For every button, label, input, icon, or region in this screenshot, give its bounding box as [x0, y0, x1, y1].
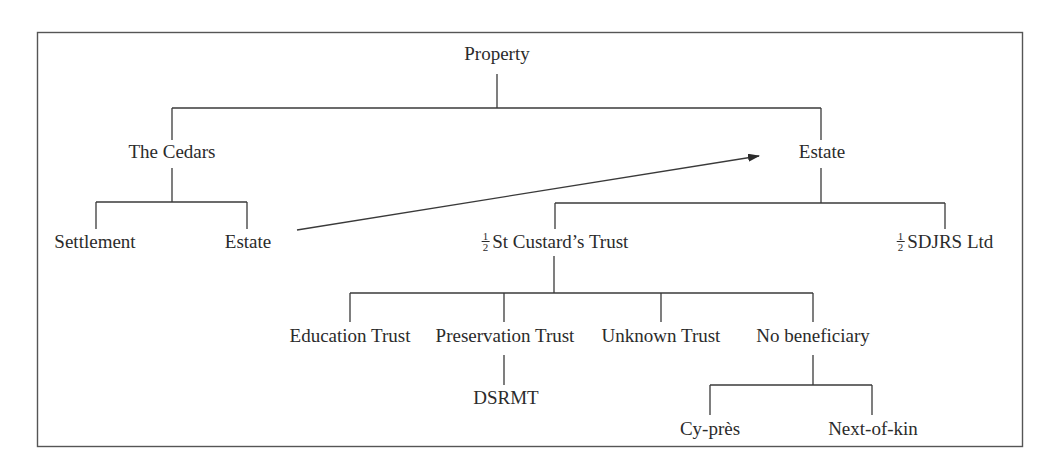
node-label: Estate: [225, 231, 271, 252]
node-estate-top: Estate: [799, 141, 845, 163]
node-label: Education Trust: [290, 325, 411, 346]
node-cedars-estate: Estate: [225, 231, 271, 253]
node-settlement: Settlement: [54, 231, 135, 253]
node-label: Property: [464, 43, 529, 64]
node-label: Next-of-kin: [828, 418, 918, 439]
node-label: Unknown Trust: [602, 325, 721, 346]
node-label: Preservation Trust: [436, 325, 575, 346]
fraction-half: 1 2: [482, 231, 490, 252]
node-sdjrs-ltd: 1 2 SDJRS Ltd: [897, 231, 994, 254]
node-preservation-trust: Preservation Trust: [436, 325, 575, 347]
node-label: No beneficiary: [756, 325, 869, 346]
node-label: Estate: [799, 141, 845, 162]
fraction-denominator: 2: [482, 242, 490, 252]
node-label: DSRMT: [473, 387, 538, 408]
fraction-half: 1 2: [897, 231, 905, 252]
node-the-cedars: The Cedars: [128, 141, 215, 163]
node-unknown-trust: Unknown Trust: [602, 325, 721, 347]
node-label: SDJRS Ltd: [907, 231, 993, 252]
node-label: Cy-près: [680, 418, 740, 439]
node-label: The Cedars: [128, 141, 215, 162]
fraction-denominator: 2: [897, 242, 905, 252]
node-cy-pres: Cy-près: [680, 418, 740, 440]
node-label: St Custard’s Trust: [492, 231, 628, 252]
node-label: Settlement: [54, 231, 135, 252]
diagram-canvas: Property The Cedars Estate Settlement Es…: [0, 0, 1061, 470]
node-property: Property: [464, 43, 529, 65]
arrow-estate-to-estate: [297, 156, 759, 230]
node-no-beneficiary: No beneficiary: [756, 325, 869, 347]
node-dsrmt: DSRMT: [473, 387, 538, 409]
node-st-custards-trust: 1 2 St Custard’s Trust: [482, 231, 629, 254]
node-next-of-kin: Next-of-kin: [828, 418, 918, 440]
node-education-trust: Education Trust: [290, 325, 411, 347]
